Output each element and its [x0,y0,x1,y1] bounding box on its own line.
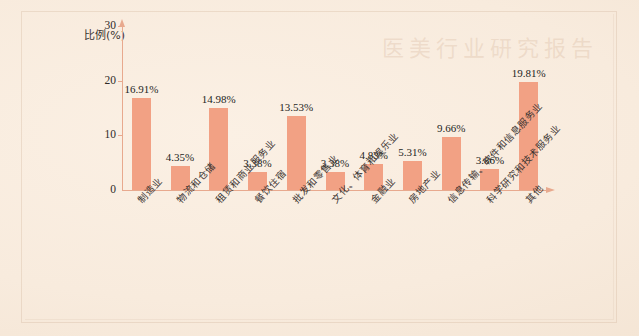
bar-value-label: 5.31% [398,146,426,158]
bar-slot [442,26,461,190]
y-axis-tick-label: 20 [90,74,116,86]
bar-value-label: 9.66% [437,122,465,134]
y-axis-tick-label: 0 [90,183,116,195]
bar-value-label: 13.53% [279,101,313,113]
scanned-page: 医美行业研究报告 比例(%) 0102030 16.91%4.35%14.98%… [0,0,639,336]
bar-slot [171,26,190,190]
chart-bar[interactable] [209,108,228,190]
bar-slot [132,26,151,190]
bar-value-label: 4.35% [166,151,194,163]
chart-bar[interactable] [287,116,306,190]
chart-bar[interactable] [132,98,151,190]
bar-value-label: 14.98% [202,93,236,105]
y-axis-tick-label: 30 [90,19,116,31]
bar-value-label: 16.91% [124,83,158,95]
bar-slot [403,26,422,190]
bar-chart: 比例(%) 0102030 16.91%4.35%14.98%3.38%13.5… [0,0,639,336]
y-axis-tick-label: 10 [90,128,116,140]
bar-value-label: 19.81% [512,67,546,79]
